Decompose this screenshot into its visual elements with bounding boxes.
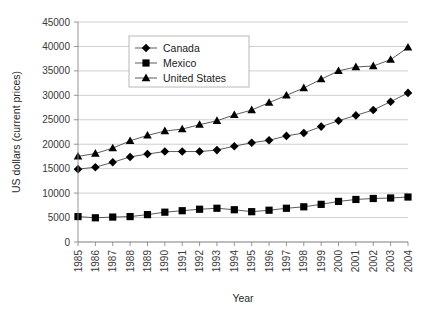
data-point [127,213,134,220]
y-axis-tick-labels: 0500010000150002000025000300003500040000… [42,17,70,248]
y-tick-label: 20000 [42,139,70,150]
data-point [369,62,378,70]
y-axis-title: US dollars (current prices) [10,71,22,193]
legend-label: Canada [163,42,200,54]
x-tick-label: 1995 [246,250,257,273]
data-point [108,144,117,152]
data-point [299,84,308,92]
data-point [161,147,170,156]
data-point [386,55,395,63]
data-point [265,136,274,145]
x-tick-label: 1991 [177,250,188,273]
data-point [299,129,308,138]
x-tick-label: 2001 [350,250,361,273]
x-tick-label: 2000 [333,250,344,273]
data-point [370,195,377,202]
line-chart: 0500010000150002000025000300003500040000… [0,0,422,313]
data-point [161,209,168,216]
data-point [404,89,413,98]
legend: CanadaMexicoUnited States [129,36,249,87]
y-tick-label: 5000 [48,212,71,223]
x-tick-label: 1986 [90,250,101,273]
data-point [92,214,99,221]
data-point [283,205,290,212]
data-point [213,146,222,155]
series-canada [74,89,413,174]
data-point [282,132,291,141]
data-point [108,158,117,167]
data-point [352,111,361,120]
y-tick-label: 40000 [42,41,70,52]
data-point [109,213,116,220]
legend-label: United States [163,72,226,84]
x-axis-title: Year [232,292,254,304]
data-point [369,106,378,115]
y-tick-label: 30000 [42,90,70,101]
data-point [213,205,220,212]
y-tick-label: 35000 [42,65,70,76]
data-point [300,203,307,210]
chart-canvas: 0500010000150002000025000300003500040000… [0,0,422,313]
x-tick-label: 2002 [368,250,379,273]
data-point [231,206,238,213]
data-point [387,194,394,201]
data-point [91,163,100,172]
data-point [247,106,256,114]
data-point [282,91,291,99]
data-point [334,116,343,125]
data-point [318,201,325,208]
data-point [196,206,203,213]
x-tick-label: 1990 [159,250,170,273]
data-point [126,153,135,162]
data-point [144,211,151,218]
data-point [265,98,274,106]
data-point [248,208,255,215]
x-tick-label: 1997 [281,250,292,273]
data-point [404,193,411,200]
legend-label: Mexico [163,57,196,69]
data-point [265,207,272,214]
y-tick-label: 15000 [42,163,70,174]
data-point [178,147,187,156]
x-tick-label: 1996 [264,250,275,273]
data-point [352,196,359,203]
legend-marker-square [142,59,149,66]
data-point [143,150,152,159]
y-tick-label: 0 [64,237,70,248]
data-point [195,147,204,156]
x-tick-label: 2004 [403,250,414,273]
x-tick-label: 1992 [194,250,205,273]
x-tick-label: 1989 [142,250,153,273]
data-point [179,207,186,214]
x-tick-label: 1988 [125,250,136,273]
x-tick-label: 1999 [316,250,327,273]
x-tick-label: 1994 [229,250,240,273]
x-tick-label: 1993 [211,250,222,273]
y-tick-label: 45000 [42,17,70,28]
data-point [247,138,256,147]
y-tick-label: 25000 [42,114,70,125]
data-point [386,97,395,106]
x-tick-label: 2003 [385,250,396,273]
x-tick-label: 1998 [298,250,309,273]
data-point [230,142,239,151]
x-tick-label: 1987 [107,250,118,273]
data-point [317,122,326,131]
data-point [335,198,342,205]
data-point [317,75,326,83]
x-tick-label: 1985 [73,250,84,273]
x-axis-tick-labels: 1985198619871988198919901991199219931994… [73,250,414,273]
y-tick-label: 10000 [42,188,70,199]
